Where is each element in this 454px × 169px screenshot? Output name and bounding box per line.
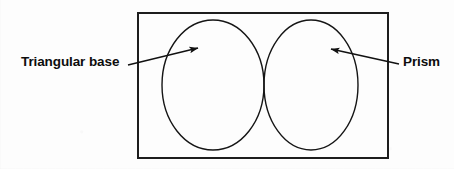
universal-set-rectangle: [138, 13, 388, 158]
label-prism: Prism: [403, 55, 440, 69]
label-triangular-base: Triangular base: [21, 55, 119, 69]
right-circle-prism: [264, 20, 358, 150]
left-circle-triangular-base: [162, 20, 264, 150]
venn-diagram-graphic: [0, 0, 454, 169]
venn-diagram-scene: Triangular base Prism: [0, 0, 454, 169]
